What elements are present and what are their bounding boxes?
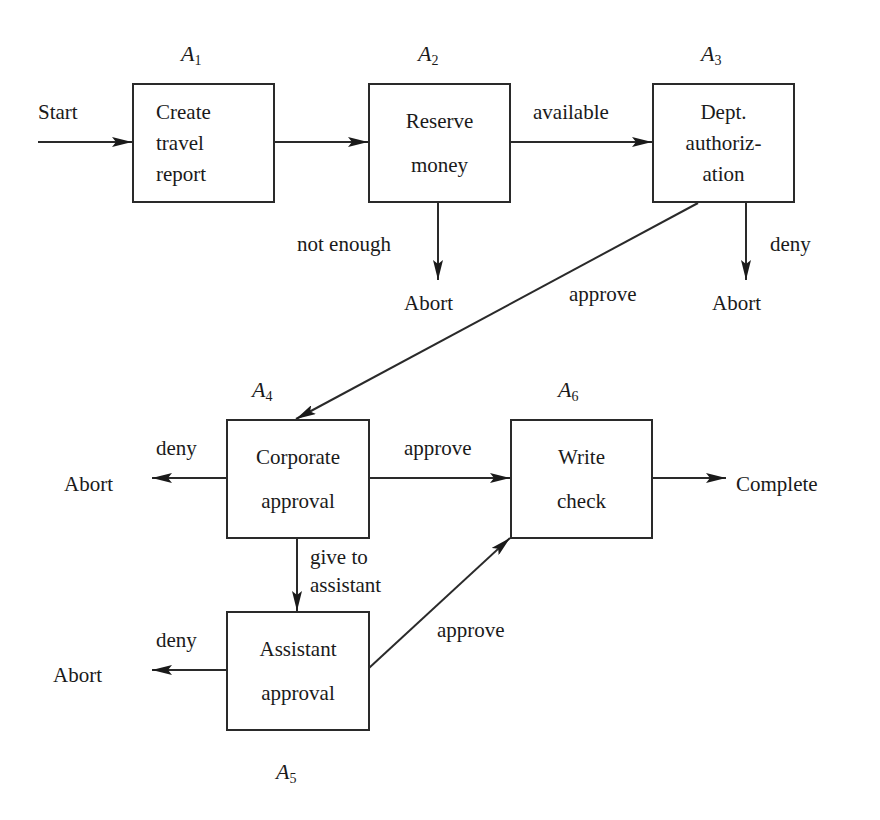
box-text-line: check (557, 479, 606, 523)
edge-a5-to-a6 (369, 538, 510, 668)
activity-symbol: A (701, 41, 714, 66)
activity-label-a2: A2 (418, 42, 438, 73)
activity-symbol: A (181, 41, 194, 66)
edge-label-deny-a5: deny (156, 628, 197, 652)
activity-symbol: A (252, 377, 265, 402)
terminal-complete: Complete (736, 472, 818, 496)
box-text-line: authoriz- (686, 128, 762, 159)
edge-label-line: assistant (310, 571, 381, 599)
activity-symbol: A (276, 759, 289, 784)
terminal-abort-a2: Abort (404, 291, 453, 315)
box-text-line: approval (261, 479, 334, 523)
activity-label-a3: A3 (701, 42, 721, 73)
activity-subscript: 2 (431, 53, 438, 68)
terminal-start: Start (38, 100, 78, 124)
box-text-line: Assistant (259, 627, 336, 671)
edge-label-give-to-assistant: give to assistant (310, 543, 381, 599)
activity-box-create-travel-report: Create travel report (132, 83, 275, 203)
box-text-line: Reserve (406, 99, 474, 143)
terminal-abort-a4: Abort (64, 472, 113, 496)
edge-label-line: give to (310, 543, 381, 571)
activity-subscript: 4 (265, 389, 272, 404)
activity-symbol: A (418, 41, 431, 66)
terminal-abort-a5: Abort (53, 663, 102, 687)
terminal-abort-a3: Abort (712, 291, 761, 315)
edge-label-approve-a4: approve (404, 436, 472, 460)
activity-box-dept-authorization: Dept. authoriz- ation (652, 83, 795, 203)
activity-subscript: 3 (714, 53, 721, 68)
edge-label-deny-a4: deny (156, 436, 197, 460)
edge-label-deny-a3: deny (770, 232, 811, 256)
activity-subscript: 5 (289, 771, 296, 786)
edge-label-approve-a5: approve (437, 618, 505, 642)
activity-symbol: A (558, 377, 571, 402)
activity-label-a1: A1 (181, 42, 201, 73)
box-text-line: report (156, 159, 206, 190)
edge-label-not-enough: not enough (297, 232, 391, 256)
travel-report-workflow-diagram: A1 A2 A3 A4 A5 A6 Create travel report R… (0, 0, 880, 820)
activity-subscript: 6 (571, 389, 578, 404)
box-text-line: Dept. (700, 97, 746, 128)
activity-label-a6: A6 (558, 378, 578, 409)
activity-box-assistant-approval: Assistant approval (226, 611, 370, 731)
activity-box-write-check: Write check (510, 419, 653, 539)
activity-box-corporate-approval: Corporate approval (226, 419, 370, 539)
box-text-line: Write (558, 435, 605, 479)
box-text-line: money (411, 143, 468, 187)
activity-label-a4: A4 (252, 378, 272, 409)
activity-box-reserve-money: Reserve money (368, 83, 511, 203)
box-text-line: Corporate (256, 435, 340, 479)
edge-label-approve-a3: approve (569, 282, 637, 306)
box-text-line: ation (703, 159, 745, 190)
box-text-line: Create (156, 97, 211, 128)
activity-subscript: 1 (194, 53, 201, 68)
activity-label-a5: A5 (276, 760, 296, 791)
box-text-line: approval (261, 671, 334, 715)
box-text-line: travel (156, 128, 204, 159)
edge-label-available: available (533, 100, 609, 124)
